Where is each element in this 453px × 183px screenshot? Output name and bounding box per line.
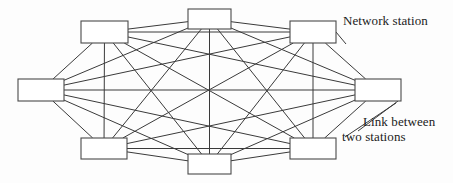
network-diagram-canvas: Network station Link between two station… bbox=[0, 0, 453, 183]
label-link-between-line-2: two stations bbox=[342, 129, 406, 144]
link-between-two-stations bbox=[128, 22, 188, 29]
link-between-two-stations bbox=[53, 101, 93, 138]
network-station-top-right bbox=[290, 21, 336, 43]
link-between-two-stations bbox=[325, 43, 365, 79]
network-station-top-left bbox=[81, 21, 128, 43]
network-station-middle-right bbox=[355, 79, 401, 101]
network-station-bottom-center bbox=[188, 154, 231, 174]
link-between-two-stations bbox=[127, 95, 355, 144]
label-network-station: Network station bbox=[343, 13, 428, 28]
link-between-two-stations bbox=[231, 152, 290, 161]
link-between-two-stations bbox=[231, 22, 290, 29]
network-station-leader bbox=[336, 32, 346, 44]
network-station-middle-left bbox=[18, 79, 64, 101]
label-link-between-line-1: Link between bbox=[363, 114, 435, 129]
network-station-bottom-right bbox=[290, 138, 336, 159]
network-station-top-center bbox=[188, 9, 231, 29]
link-between-two-stations bbox=[127, 152, 188, 161]
link-between-two-stations bbox=[64, 95, 290, 144]
link-between-two-stations bbox=[53, 43, 92, 79]
network-station-bottom-left bbox=[81, 138, 127, 159]
